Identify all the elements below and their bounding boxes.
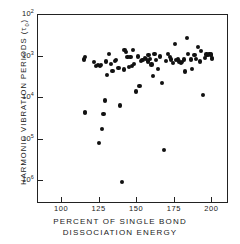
x-axis-tick-label: 200 bbox=[196, 205, 226, 213]
x-axis-tick bbox=[174, 197, 175, 203]
y-axis-title: HARMONIC VIBRATION PERIODS (τ0) bbox=[20, 7, 28, 197]
data-point bbox=[182, 57, 186, 61]
x-axis-tick bbox=[99, 197, 100, 203]
data-point bbox=[210, 57, 214, 61]
data-point bbox=[183, 69, 187, 73]
data-point bbox=[199, 49, 203, 53]
data-point bbox=[173, 42, 177, 46]
data-point bbox=[137, 84, 141, 88]
x-axis-tick bbox=[61, 197, 62, 203]
data-point bbox=[114, 58, 118, 62]
data-point bbox=[186, 52, 190, 56]
data-points-layer bbox=[38, 15, 227, 202]
x-axis-tick bbox=[136, 197, 137, 203]
x-axis-title: PERCENT OF SINGLE BOND DISSOCIATION ENER… bbox=[0, 217, 240, 238]
x-axis-title-line-2: DISSOCIATION ENERGY bbox=[0, 228, 240, 239]
data-point bbox=[158, 54, 162, 58]
data-point bbox=[83, 111, 87, 115]
data-point bbox=[132, 62, 136, 66]
data-point bbox=[103, 98, 107, 102]
x-axis-title-line-1: PERCENT OF SINGLE BOND bbox=[0, 217, 240, 228]
data-point bbox=[185, 36, 189, 40]
data-point bbox=[131, 48, 135, 52]
data-point bbox=[156, 67, 160, 71]
data-point bbox=[152, 52, 156, 56]
x-axis-tick-label: 150 bbox=[121, 205, 151, 213]
data-point bbox=[198, 59, 202, 63]
data-point bbox=[189, 57, 193, 61]
data-point bbox=[116, 66, 120, 70]
x-axis-tick bbox=[211, 197, 212, 203]
y-axis-tick bbox=[37, 180, 43, 181]
data-point bbox=[120, 180, 124, 184]
data-point bbox=[83, 55, 87, 59]
y-axis-tick bbox=[37, 56, 43, 57]
scatter-chart-figure: 102103104105106 100125150175200 HARMONIC… bbox=[0, 0, 240, 244]
data-point bbox=[201, 93, 205, 97]
data-point bbox=[99, 63, 103, 67]
data-point bbox=[151, 74, 155, 78]
data-point bbox=[124, 50, 128, 54]
y-axis-tick bbox=[37, 14, 43, 15]
data-point bbox=[105, 73, 109, 77]
data-point bbox=[149, 62, 153, 66]
data-point bbox=[190, 67, 194, 71]
data-point bbox=[107, 52, 111, 56]
x-axis-tick-label: 125 bbox=[84, 205, 114, 213]
data-point bbox=[100, 127, 104, 131]
data-point bbox=[122, 67, 126, 71]
x-axis-tick-label: 175 bbox=[159, 205, 189, 213]
data-point bbox=[148, 57, 152, 61]
data-point bbox=[118, 103, 122, 107]
plot-frame bbox=[37, 14, 228, 203]
y-axis-tick bbox=[37, 139, 43, 140]
data-point bbox=[134, 89, 138, 93]
data-point bbox=[164, 59, 168, 63]
data-point bbox=[110, 69, 114, 73]
x-axis-tick-label: 100 bbox=[46, 205, 76, 213]
data-point bbox=[160, 81, 164, 85]
data-point bbox=[128, 55, 132, 59]
data-point bbox=[97, 141, 101, 145]
data-point bbox=[162, 148, 166, 152]
data-point bbox=[154, 58, 158, 62]
y-axis-tick bbox=[37, 97, 43, 98]
data-point bbox=[104, 59, 108, 63]
data-point bbox=[101, 112, 105, 116]
